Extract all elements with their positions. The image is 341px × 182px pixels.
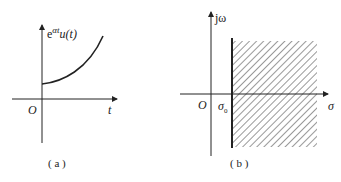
caption-b: ( b ) (230, 158, 248, 169)
sigma0-label: σ0 (218, 100, 227, 115)
sigma0-subscript: 0 (224, 107, 228, 115)
panel-a (12, 25, 117, 143)
sigma-axis-label: σ (328, 100, 334, 112)
t-axis-label: t (108, 104, 111, 116)
y-axis-label-a: eαtu(t) (47, 26, 77, 40)
jw-axis-label: jω (215, 12, 226, 24)
origin-label-b: O (198, 99, 207, 111)
caption-a: ( a ) (48, 158, 66, 169)
label-exponent: αt (52, 25, 59, 35)
origin-label-a: O (28, 104, 37, 116)
label-unit-step: u(t) (60, 27, 77, 41)
exp-curve (42, 36, 103, 84)
panel-b (180, 12, 328, 156)
